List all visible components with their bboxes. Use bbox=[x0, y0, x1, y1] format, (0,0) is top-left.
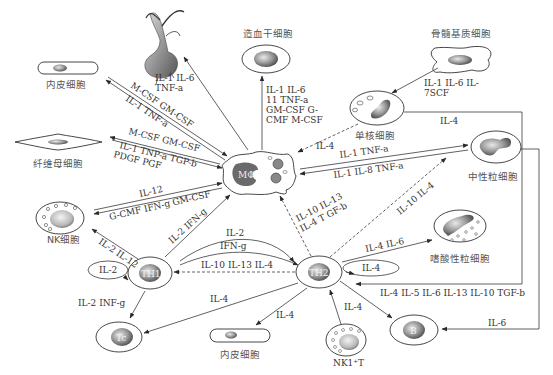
endothelial-cell-bottom: 内皮细胞 bbox=[210, 329, 270, 360]
cytokine-network-diagram: 造血干细胞 骨髓基质细胞 内皮细胞 纤维母细胞 MΦ 单核细胞 bbox=[0, 0, 553, 375]
nk1t-label: NK1⁺T bbox=[333, 358, 364, 368]
eosinophil-label: 嗜酸性粒细胞 bbox=[430, 253, 490, 264]
svg-text:IL-4 IL-5 IL-6 IL-13 IL-10 TGF: IL-4 IL-5 IL-6 IL-13 IL-10 TGF-b bbox=[380, 288, 525, 298]
svg-text:IL-4: IL-4 bbox=[316, 141, 335, 151]
edge-th1-nk: IL-2 IL-12 bbox=[92, 229, 140, 270]
eosinophil-cell: 嗜酸性粒细胞 bbox=[430, 210, 490, 264]
hematopoietic-stem-cell: 造血干细胞 bbox=[242, 28, 293, 73]
endothelial-top-label: 内皮细胞 bbox=[46, 79, 86, 90]
nk-cell: NK细胞 bbox=[36, 202, 84, 245]
edge-fibroblast-mphi: M-CSF GM-CSF IL-1 TNP-a TGP-b PDGF PGF bbox=[110, 126, 222, 171]
bone-marrow-stromal-cell: 骨髓基质细胞 bbox=[431, 28, 491, 73]
svg-text:11 TNF-a: 11 TNF-a bbox=[266, 95, 309, 105]
tc-label: Tc bbox=[116, 333, 126, 343]
svg-text:IL-10 IL-4: IL-10 IL-4 bbox=[395, 180, 436, 217]
fibroblast-label: 纤维母细胞 bbox=[33, 158, 83, 169]
svg-text:IL-2 IFN-g: IL-2 IFN-g bbox=[167, 206, 209, 245]
th2-self-loop: IL-4 bbox=[343, 260, 399, 276]
svg-text:IL-6: IL-6 bbox=[488, 318, 507, 328]
edge-th2-th1: IL-10 IL-13 IL-4 bbox=[174, 260, 295, 272]
svg-text:IL-1 IL-6: IL-1 IL-6 bbox=[266, 85, 306, 95]
svg-text:IL-4: IL-4 bbox=[440, 116, 459, 126]
nk-label: NK细胞 bbox=[47, 234, 80, 245]
edge-nk1t-th2: IL-4 bbox=[330, 290, 363, 324]
svg-text:7SCF: 7SCF bbox=[424, 88, 449, 98]
nk1t-cell: NK1⁺T bbox=[326, 324, 366, 368]
th1-self-label: IL-2 bbox=[99, 265, 117, 275]
monocyte-label: 单核细胞 bbox=[355, 130, 395, 141]
endothelial-bottom-label: 内皮细胞 bbox=[220, 349, 260, 360]
svg-text:IL-4: IL-4 bbox=[344, 302, 363, 312]
edge-th1-tc: IL-2 INF-g bbox=[78, 291, 145, 318]
svg-text:GM-CSF G-: GM-CSF G- bbox=[266, 105, 318, 115]
edge-th2-b: IL-4 IL-5 IL-6 IL-13 IL-10 TGF-b bbox=[340, 281, 525, 318]
stromal-label: 骨髓基质细胞 bbox=[431, 28, 491, 39]
edge-th2-eosinophil: IL-4 IL-6 bbox=[342, 236, 432, 262]
svg-text:CMF M-CSF: CMF M-CSF bbox=[266, 115, 323, 125]
svg-text:IL-2: IL-2 bbox=[226, 228, 244, 238]
b-label: B bbox=[410, 326, 417, 336]
th1-label: TH1 bbox=[141, 269, 161, 279]
neutrophil-cell: 中性粒细胞 bbox=[468, 131, 521, 182]
tc-cell: Tc bbox=[96, 322, 142, 352]
macrophage-cell[interactable]: MΦ bbox=[222, 152, 296, 195]
macrophage-label: MΦ bbox=[238, 170, 255, 180]
edge-th2-endothelial: IL-4 bbox=[256, 288, 307, 325]
svg-text:IL-2 INF-g: IL-2 INF-g bbox=[78, 298, 125, 308]
endothelial-cell-top: 内皮细胞 bbox=[38, 62, 98, 90]
neutrophil-label: 中性粒细胞 bbox=[468, 171, 518, 182]
th2-label: TH2 bbox=[309, 268, 329, 278]
svg-text:IL-4: IL-4 bbox=[210, 294, 229, 304]
svg-text:IL-1 IL-6 IL-: IL-1 IL-6 IL- bbox=[424, 78, 479, 88]
fibroblast-cell: 纤维母细胞 bbox=[15, 134, 102, 169]
svg-text:TNF-a: TNF-a bbox=[155, 83, 184, 93]
edge-mphi-hsc: IL-1 IL-6 11 TNF-a GM-CSF G- CMF M-CSF bbox=[262, 76, 323, 150]
edge-th2-tc: IL-4 bbox=[144, 283, 298, 333]
th2-self-label: IL-4 bbox=[362, 263, 381, 273]
edge-th2-mphi: IL-10 IL-13 IL-4 T GF-b bbox=[280, 191, 349, 256]
svg-text:IL-1 IL-6: IL-1 IL-6 bbox=[155, 73, 195, 83]
svg-text:IFN-g: IFN-g bbox=[220, 241, 247, 251]
hsc-label: 造血干细胞 bbox=[243, 28, 293, 39]
svg-text:IL-4: IL-4 bbox=[276, 310, 295, 320]
monocyte-cell: 单核细胞 bbox=[350, 91, 404, 141]
th2-cell[interactable]: TH2 bbox=[296, 256, 342, 288]
b-cell: B bbox=[390, 315, 438, 345]
svg-text:IL-12: IL-12 bbox=[138, 184, 164, 199]
svg-text:IL-10 IL-13 IL-4: IL-10 IL-13 IL-4 bbox=[201, 260, 273, 270]
th1-self-loop: IL-2 bbox=[88, 261, 128, 280]
